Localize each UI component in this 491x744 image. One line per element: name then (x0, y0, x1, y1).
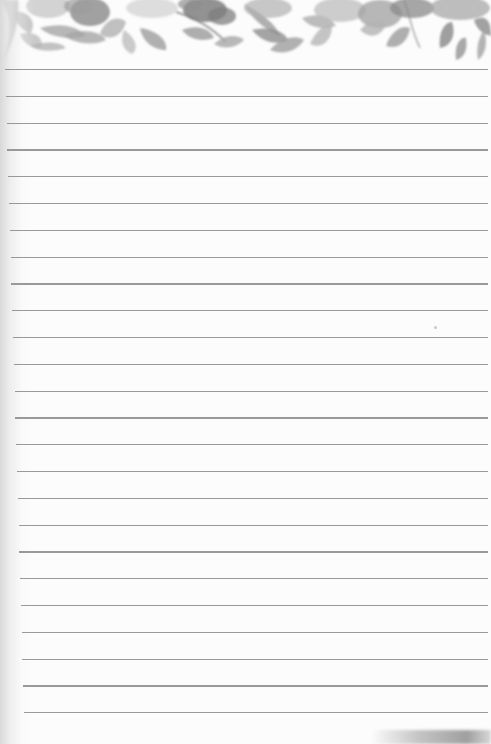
paper-speck (434, 326, 437, 329)
ruled-line (9, 203, 488, 204)
ruled-line (17, 471, 488, 472)
ruled-line (13, 337, 488, 338)
ruled-line (10, 230, 488, 231)
ruled-line (14, 364, 488, 365)
ruled-line (6, 96, 488, 97)
ruled-line (19, 551, 488, 552)
ruled-line (11, 257, 489, 258)
ruled-line (15, 391, 489, 392)
floral-border-decoration (0, 0, 491, 64)
ruled-line (12, 310, 488, 311)
ruled-line (8, 176, 488, 177)
corner-smudge (371, 730, 491, 744)
ruled-line (20, 578, 488, 579)
ruled-line (22, 632, 488, 633)
ruled-line (21, 605, 488, 606)
ruled-line (7, 149, 488, 150)
ruled-line (15, 417, 488, 418)
ruled-line (7, 123, 488, 124)
notepaper-page (0, 0, 491, 744)
ruled-line (5, 69, 488, 70)
ruled-line (19, 525, 489, 526)
ruled-line (16, 444, 488, 445)
ruled-line (24, 712, 488, 713)
ruled-line (18, 498, 488, 499)
ruled-line (22, 659, 488, 660)
ruled-line (11, 283, 488, 284)
ruled-line (23, 685, 488, 686)
